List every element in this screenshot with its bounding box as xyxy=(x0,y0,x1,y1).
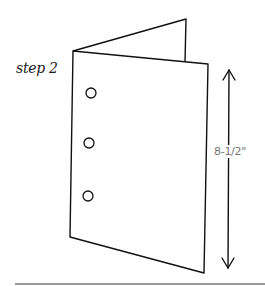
step-label: step 2 xyxy=(16,60,58,76)
hole-3 xyxy=(83,191,93,201)
folded-card-diagram xyxy=(0,0,265,286)
height-dimension-arrow xyxy=(222,70,235,268)
hole-2 xyxy=(84,138,94,148)
divider-rule xyxy=(15,283,265,285)
hole-1 xyxy=(86,88,96,98)
dimension-label: 8-1/2" xyxy=(213,145,247,158)
front-panel xyxy=(70,51,208,273)
